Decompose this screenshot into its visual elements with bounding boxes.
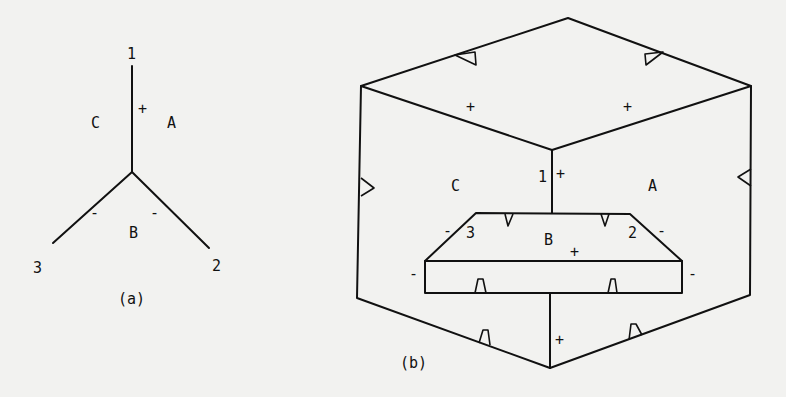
sign-left-slant: - <box>443 222 452 240</box>
sign-center-edge-bottom: + <box>555 331 564 349</box>
region-label-c: C <box>451 177 460 195</box>
sign-top-right-face: + <box>623 98 632 116</box>
tick-rect-right <box>608 279 617 293</box>
tick-left-side <box>361 178 374 196</box>
figure-canvas: 1 3 2 C A B + - - (a) 1 <box>0 0 786 397</box>
sign-edge-1: + <box>138 100 147 118</box>
figure-b: 1 3 2 C A B + + + + - - - - + (b) <box>357 18 751 372</box>
sign-rect-left: - <box>409 265 418 283</box>
tick-trap-right <box>601 214 609 226</box>
sign-edge-2: - <box>150 204 159 222</box>
edge-left-top <box>361 86 552 150</box>
tick-rect-left <box>475 279 486 293</box>
vertex-label-3: 3 <box>466 224 475 242</box>
sign-center-edge-top: + <box>556 165 565 183</box>
vertex-label-2: 2 <box>628 224 637 242</box>
region-label-a: A <box>167 114 176 132</box>
tick-top-right <box>645 52 663 65</box>
tick-top-left <box>455 52 476 65</box>
tick-trap-left <box>505 214 513 226</box>
region-label-b: B <box>544 231 553 249</box>
caption-b: (b) <box>400 354 427 372</box>
vertex-label-1: 1 <box>538 168 547 186</box>
edge-2 <box>132 172 209 248</box>
sign-region-b: + <box>570 243 579 261</box>
figure-a: 1 3 2 C A B + - - (a) <box>33 45 221 308</box>
outer-hexagon <box>357 18 751 368</box>
vertex-label-2: 2 <box>212 257 221 275</box>
tick-right-side <box>738 169 751 186</box>
sign-top-left-face: + <box>466 98 475 116</box>
sign-rect-right: - <box>688 265 697 283</box>
region-label-c: C <box>91 114 100 132</box>
region-label-a: A <box>648 177 657 195</box>
rectangle-b <box>425 261 682 293</box>
sign-right-slant: - <box>657 222 666 240</box>
trapezoid-b <box>425 213 682 261</box>
edge-right-top <box>552 86 751 150</box>
vertex-label-3: 3 <box>33 259 42 277</box>
sign-edge-3: - <box>90 204 99 222</box>
vertex-label-1: 1 <box>127 45 136 63</box>
caption-a: (a) <box>118 290 145 308</box>
region-label-b: B <box>129 224 138 242</box>
